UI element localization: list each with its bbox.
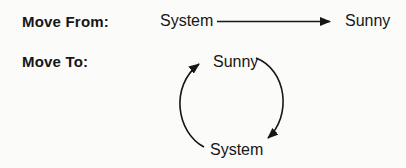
curved-arrow-down-icon [256, 58, 283, 138]
curved-arrow-up-icon [180, 64, 204, 147]
arrow-layer [0, 0, 406, 168]
transition-diagram: Move From: System Sunny Move To: Sunny S… [0, 0, 406, 168]
